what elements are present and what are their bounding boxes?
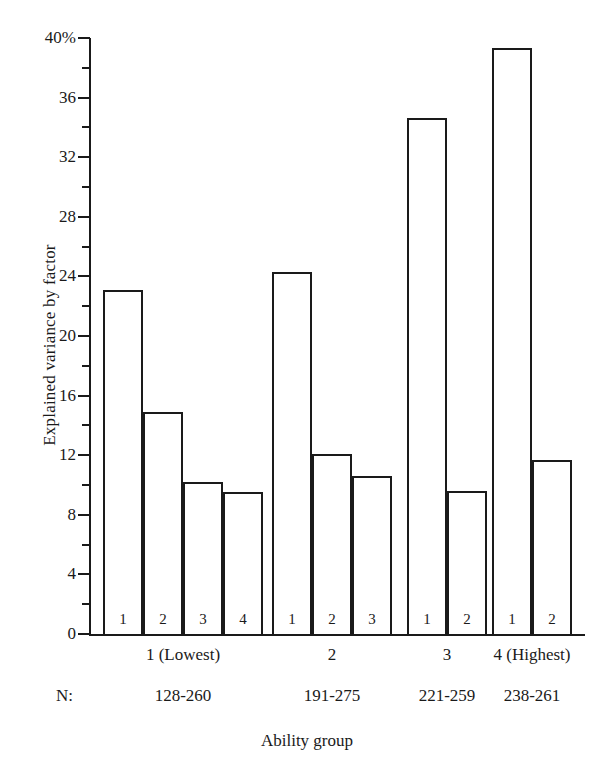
y-tick-major <box>78 633 90 635</box>
y-tick-major <box>78 216 90 218</box>
y-tick-minor <box>82 603 90 605</box>
group-label: 4 (Highest) <box>452 645 612 665</box>
group-n-value: 238-261 <box>452 686 612 706</box>
bar: 2 <box>143 412 183 636</box>
y-tick-label: 36 <box>4 89 76 106</box>
y-tick-label: 8 <box>4 506 76 523</box>
bar-chart: Explained variance by factor 40%36322824… <box>0 0 614 771</box>
bar-factor-label: 1 <box>409 611 445 628</box>
bar-factor-label: 1 <box>105 611 141 628</box>
y-tick-label: 0 <box>4 625 76 642</box>
bar-factor-label: 1 <box>494 611 530 628</box>
y-tick-major <box>78 97 90 99</box>
y-tick-major <box>78 573 90 575</box>
bar: 1 <box>492 48 532 636</box>
y-tick-major <box>78 454 90 456</box>
bar: 4 <box>223 492 263 636</box>
group-n-value: 128-260 <box>103 686 263 706</box>
y-axis-title: Explained variance by factor <box>40 215 60 475</box>
bar: 2 <box>532 460 572 636</box>
bar-factor-label: 2 <box>314 611 350 628</box>
bar-factor-label: 4 <box>225 611 261 628</box>
y-tick-label: 28 <box>4 208 76 225</box>
y-tick-minor <box>82 126 90 128</box>
bar-factor-label: 3 <box>185 611 221 628</box>
n-prefix-label: N: <box>56 686 73 706</box>
y-tick-major <box>78 514 90 516</box>
bar: 1 <box>272 272 312 636</box>
group-label: 1 (Lowest) <box>103 645 263 665</box>
y-tick-minor <box>82 305 90 307</box>
y-tick-minor <box>82 484 90 486</box>
y-tick-major <box>78 156 90 158</box>
bar: 3 <box>183 482 223 636</box>
y-tick-major <box>78 37 90 39</box>
y-tick-minor <box>82 246 90 248</box>
y-tick-label: 40% <box>4 29 76 46</box>
y-tick-major <box>78 275 90 277</box>
y-tick-major <box>78 395 90 397</box>
bar: 3 <box>352 476 392 636</box>
y-tick-minor <box>82 186 90 188</box>
bar-factor-label: 3 <box>354 611 390 628</box>
y-tick-label: 4 <box>4 565 76 582</box>
y-tick-label: 20 <box>4 327 76 344</box>
y-tick-minor <box>82 67 90 69</box>
bar: 1 <box>103 290 143 636</box>
y-tick-label: 32 <box>4 148 76 165</box>
bar-factor-label: 1 <box>274 611 310 628</box>
y-tick-major <box>78 335 90 337</box>
y-tick-minor <box>82 424 90 426</box>
y-tick-label: 12 <box>4 446 76 463</box>
bar-factor-label: 2 <box>534 611 570 628</box>
x-axis-title: Ability group <box>0 731 614 751</box>
bar-factor-label: 2 <box>145 611 181 628</box>
y-tick-minor <box>82 365 90 367</box>
bar-factor-label: 2 <box>449 611 485 628</box>
y-tick-label: 16 <box>4 387 76 404</box>
y-tick-minor <box>82 544 90 546</box>
bar: 2 <box>312 454 352 636</box>
bar: 1 <box>407 118 447 636</box>
bar: 2 <box>447 491 487 636</box>
y-tick-label: 24 <box>4 267 76 284</box>
